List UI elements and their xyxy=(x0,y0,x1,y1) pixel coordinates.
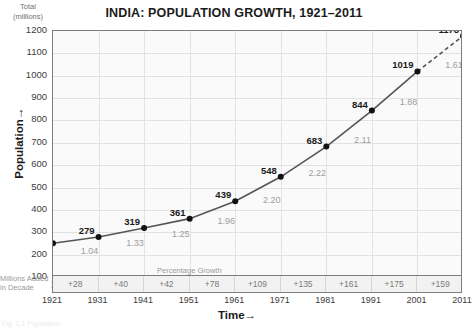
millions-added-cell: +159 xyxy=(417,276,463,292)
data-point-value-label: 548 xyxy=(261,164,277,175)
y-unit-label: Total (millions) xyxy=(2,2,54,21)
data-point-value-label: 1019 xyxy=(392,59,413,70)
data-point-marker xyxy=(369,108,375,114)
y-tick-label: 1200 xyxy=(3,24,47,35)
millions-added-cell: +42 xyxy=(144,276,190,292)
data-point-value-label: 844 xyxy=(352,98,368,109)
growth-rate-label: 1.88 xyxy=(400,97,418,107)
chart-title: INDIA: POPULATION GROWTH, 1921–2011 xyxy=(74,6,394,20)
growth-rate-label: 1.04 xyxy=(81,246,99,256)
growth-rate-label: 1.61 xyxy=(445,60,462,70)
y-unit-label-line1: Total xyxy=(2,2,54,12)
millions-added-cell: +109 xyxy=(235,276,281,292)
x-tick-label: 1951 xyxy=(169,295,209,305)
y-tick-label: 400 xyxy=(3,203,47,214)
data-point-marker xyxy=(52,240,56,246)
x-tick-label: 1991 xyxy=(351,295,391,305)
growth-annotation-line1: Percentage Growth xyxy=(157,266,222,275)
data-point-value-label: 319 xyxy=(124,216,140,227)
data-point-marker xyxy=(187,216,193,222)
x-tick-label: 2001 xyxy=(396,295,436,305)
x-tick-label: 1921 xyxy=(32,295,72,305)
growth-rate-annotation: Percentage GrowthRate in Decade xyxy=(157,266,222,276)
growth-rate-label: 2.22 xyxy=(309,168,327,178)
growth-rate-label: 1.25 xyxy=(172,229,190,239)
x-axis-arrow-icon: → xyxy=(245,309,257,321)
x-tick-label: 1981 xyxy=(305,295,345,305)
millions-added-cell: +135 xyxy=(281,276,327,292)
data-point-marker xyxy=(414,68,420,74)
y-tick-label: 1000 xyxy=(3,69,47,80)
x-tick-label: 1971 xyxy=(260,295,300,305)
x-axis-title-text: Time xyxy=(218,309,245,321)
millions-added-cell: +78 xyxy=(190,276,236,292)
y-tick-label: 200 xyxy=(3,248,47,259)
x-axis-title: Time→ xyxy=(0,309,474,321)
x-tick-label: 2011 xyxy=(442,295,474,305)
y-tick-label: 500 xyxy=(3,181,47,192)
x-tick-label: 1931 xyxy=(78,295,118,305)
growth-rate-label: 1.96 xyxy=(217,216,235,226)
data-point-value-label: 1178 xyxy=(438,30,459,34)
data-point-marker xyxy=(323,144,329,150)
data-point-marker xyxy=(278,174,284,180)
millions-added-cell: +28 xyxy=(53,276,99,292)
data-point-value-label: 279 xyxy=(79,224,95,235)
y-unit-label-line2: (millions) xyxy=(2,12,54,22)
data-point-marker xyxy=(96,234,102,240)
data-point-marker xyxy=(460,33,462,39)
millions-added-label: Millions Added in Decade xyxy=(0,274,50,292)
data-point-marker xyxy=(141,225,147,231)
y-axis-title-text: Population xyxy=(13,119,25,178)
x-tick-label: 1941 xyxy=(123,295,163,305)
millions-added-cell: +40 xyxy=(99,276,145,292)
millions-added-cell: +161 xyxy=(326,276,372,292)
millions-added-band: +28+40+42+78+109+135+161+175+159 xyxy=(52,276,462,293)
data-point-value-label: 683 xyxy=(306,134,322,145)
data-point-value-label: 439 xyxy=(215,189,231,200)
y-tick-label: 1100 xyxy=(3,46,47,57)
data-point-marker xyxy=(232,198,238,204)
y-tick-label: 700 xyxy=(3,136,47,147)
millions-added-label-line1: Millions Added xyxy=(0,274,50,283)
figure-population-growth: Total (millions) INDIA: POPULATION GROWT… xyxy=(0,0,474,331)
y-tick-label: 600 xyxy=(3,158,47,169)
millions-added-cell: +175 xyxy=(372,276,418,292)
x-tick-label: 1961 xyxy=(214,295,254,305)
growth-rate-label: 2.20 xyxy=(263,195,281,205)
millions-added-label-line2: in Decade xyxy=(0,283,50,292)
y-tick-label: 900 xyxy=(3,91,47,102)
plot-area: 251279319361439548683844101911781.041.33… xyxy=(52,30,462,276)
growth-rate-label: 2.11 xyxy=(354,135,371,145)
growth-rate-label: 1.33 xyxy=(126,238,144,248)
data-point-value-label: 361 xyxy=(170,206,186,217)
figure-caption: Fig. 1.1 Population xyxy=(2,320,60,327)
y-tick-label: 800 xyxy=(3,113,47,124)
y-tick-label: 300 xyxy=(3,225,47,236)
